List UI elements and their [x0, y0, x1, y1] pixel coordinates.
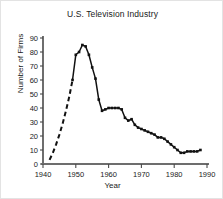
- data-point: [127, 119, 130, 122]
- data-point: [140, 128, 143, 131]
- chart-figure: U.S. Television Industry Number of Firms…: [0, 0, 223, 199]
- data-point: [186, 150, 189, 153]
- x-axis-tick-label: 1990: [199, 170, 216, 179]
- data-point: [163, 138, 166, 141]
- data-point: [176, 149, 179, 152]
- data-point: [189, 150, 192, 153]
- data-point: [153, 133, 156, 136]
- y-axis-tick-label: 0: [34, 160, 38, 169]
- y-axis-tick-label: 90: [30, 34, 38, 43]
- data-point: [107, 107, 110, 110]
- data-point: [137, 126, 140, 129]
- data-point: [75, 54, 78, 57]
- y-axis-tick-label: 70: [30, 62, 38, 71]
- y-axis-tick-label: 50: [30, 90, 38, 99]
- data-point: [101, 110, 104, 113]
- data-point: [111, 107, 114, 110]
- data-point: [179, 152, 182, 155]
- data-point: [97, 98, 100, 101]
- data-series: [50, 44, 202, 160]
- data-point: [183, 152, 186, 155]
- data-point: [166, 140, 169, 143]
- data-point: [71, 79, 74, 82]
- data-point: [160, 136, 163, 139]
- y-axis-tick-label: 80: [30, 48, 38, 57]
- data-point: [120, 108, 123, 111]
- data-point: [104, 108, 107, 111]
- x-axis-tick-label: 1970: [133, 170, 150, 179]
- data-point: [114, 107, 117, 110]
- data-point: [193, 150, 196, 153]
- data-point: [88, 54, 91, 57]
- y-axis-tick-label: 60: [30, 76, 38, 85]
- y-axis-tick-label: 40: [30, 104, 38, 113]
- data-point: [199, 149, 202, 152]
- data-point: [81, 44, 84, 47]
- data-point: [84, 45, 87, 48]
- data-point: [130, 118, 133, 121]
- y-axis: 0102030405060708090: [30, 34, 43, 169]
- x-axis-tick-label: 1980: [166, 170, 183, 179]
- x-axis: 194019501960197019801990: [35, 164, 216, 179]
- x-axis-tick-label: 1940: [35, 170, 52, 179]
- x-axis-tick-label: 1950: [67, 170, 84, 179]
- data-point: [124, 117, 127, 120]
- plot-area: 0102030405060708090 19401950196019701980…: [1, 1, 223, 199]
- data-point: [78, 51, 81, 54]
- data-point: [134, 124, 137, 127]
- y-axis-tick-label: 20: [30, 132, 38, 141]
- data-point: [94, 77, 97, 80]
- data-point: [143, 129, 146, 132]
- data-point: [173, 146, 176, 149]
- y-axis-tick-label: 10: [30, 146, 38, 155]
- data-point: [91, 66, 94, 69]
- data-point: [196, 150, 199, 153]
- data-point: [170, 143, 173, 146]
- x-axis-tick-label: 1960: [100, 170, 117, 179]
- data-point: [150, 132, 153, 135]
- data-point: [157, 136, 160, 139]
- series-line: [73, 45, 201, 153]
- data-point: [117, 107, 120, 110]
- y-axis-tick-label: 30: [30, 118, 38, 127]
- data-point: [147, 131, 150, 134]
- series-line: [50, 80, 73, 160]
